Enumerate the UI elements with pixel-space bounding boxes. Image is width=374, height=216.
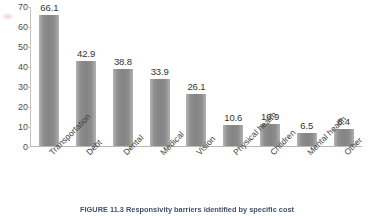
bar-value-label: 42.9 — [77, 48, 95, 59]
y-axis-tick-mark — [27, 7, 30, 8]
bar[interactable] — [150, 79, 170, 146]
x-label-slot: Children — [252, 148, 289, 200]
x-label-slot: Transportation — [31, 148, 68, 200]
bar-value-label: 38.8 — [114, 56, 132, 67]
bar-slot: 26.1 — [178, 7, 215, 146]
bar-slot: 10.6 — [215, 7, 252, 146]
bar-slot: 6.5 — [288, 7, 325, 146]
y-axis-tick-mark — [27, 67, 30, 68]
scan-artifact-smudge — [3, 14, 12, 19]
x-label-slot: Debt — [68, 148, 105, 200]
y-axis-tick-0: 0 — [2, 142, 28, 152]
x-label-slot: Vision — [178, 148, 215, 200]
bar[interactable] — [39, 15, 59, 146]
bar-slot: 38.8 — [105, 7, 142, 146]
bar-slot: 33.9 — [141, 7, 178, 146]
y-axis-tick-40: 40 — [2, 62, 28, 72]
x-label-slot: Other — [325, 148, 362, 200]
y-axis-tick-10: 10 — [2, 122, 28, 132]
y-axis-tick-mark — [27, 27, 30, 28]
bar[interactable] — [76, 61, 96, 146]
x-label-slot: Mental health — [288, 148, 325, 200]
bar-value-label: 10.6 — [224, 112, 242, 123]
y-axis-tick-mark — [27, 87, 30, 88]
bar-value-label: 26.1 — [187, 81, 205, 92]
y-axis-tick-20: 20 — [2, 102, 28, 112]
x-label-slot: Medical — [141, 148, 178, 200]
y-axis-tick-30: 30 — [2, 82, 28, 92]
x-label-slot: Dental — [105, 148, 142, 200]
y-axis-tick-mark — [27, 127, 30, 128]
bar[interactable] — [186, 94, 206, 146]
bar[interactable] — [113, 69, 133, 146]
bar-value-label: 33.9 — [151, 66, 169, 77]
y-axis-tick-60: 60 — [2, 22, 28, 32]
y-axis-tick-70: 70 — [2, 2, 28, 12]
bar-value-label: 6.5 — [300, 120, 313, 131]
x-axis-category-labels: TransportationDebtDentalMedicalVisionPhy… — [30, 148, 362, 200]
bar-value-label: 66.1 — [40, 2, 58, 13]
bar-slot: 66.1 — [31, 7, 68, 146]
y-axis-tick-mark — [27, 47, 30, 48]
y-axis-tick-mark — [27, 107, 30, 108]
y-axis-tick-50: 50 — [2, 42, 28, 52]
x-label-slot: Physical health — [215, 148, 252, 200]
figure-container: 010203040506070 66.142.938.833.926.110.6… — [0, 0, 374, 216]
figure-caption: FIGURE 11.3 Responsivity barriers identi… — [0, 205, 374, 214]
